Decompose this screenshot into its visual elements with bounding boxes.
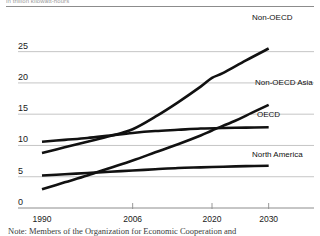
series-lines <box>42 49 269 190</box>
y-axis-tick-label: 10 <box>18 134 36 144</box>
chart-note: Note: Members of the Organization for Ec… <box>8 226 320 236</box>
x-axis-tick-label: 2006 <box>113 214 153 224</box>
y-axis-tick-label: 0 <box>18 197 36 207</box>
x-axis-tick-label: 2020 <box>192 214 232 224</box>
x-axis-tick-label: 1990 <box>22 214 62 224</box>
series-label: Non-OECD <box>252 13 292 22</box>
series-line <box>42 49 269 153</box>
y-axis-tick-label: 25 <box>18 41 36 51</box>
series-label: North America <box>252 150 303 159</box>
series-line <box>42 166 269 176</box>
y-axis-tick-label: 15 <box>18 103 36 113</box>
series-label: Non-OECD Asia <box>255 78 313 87</box>
chart-figure: in trillion kilowatt-hours 0510152025 19… <box>0 0 320 236</box>
y-axis-tick-label: 5 <box>18 166 36 176</box>
x-axis-tick-label: 2030 <box>249 214 289 224</box>
series-line <box>42 127 269 141</box>
series-label: OECD <box>257 110 280 119</box>
y-axis-tick-label: 20 <box>18 72 36 82</box>
